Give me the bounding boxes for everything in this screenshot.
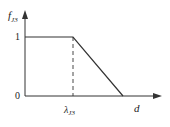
function-curve — [25, 37, 123, 96]
y-axis-arrow-icon — [22, 10, 28, 19]
y-axis-label: fJ3 — [8, 9, 18, 24]
x-tick-lambda: λJ3 — [63, 104, 75, 117]
x-axis-label: d — [134, 102, 140, 114]
y-tick-0: 0 — [15, 90, 20, 101]
x-axis-arrow-icon — [153, 93, 162, 99]
y-tick-1: 1 — [15, 31, 20, 42]
membership-function-diagram: fJ3 1 0 λJ3 d — [0, 0, 170, 127]
